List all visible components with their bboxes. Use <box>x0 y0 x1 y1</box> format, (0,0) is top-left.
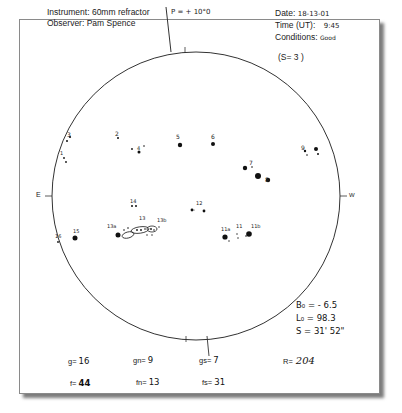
b0-value: B₀ = - 6.5 <box>296 300 337 310</box>
spot-label-14: 14 <box>130 198 136 204</box>
solar-disk-drawing <box>0 0 402 413</box>
spot-label-8: 8 <box>265 176 269 183</box>
east-label: E <box>36 191 41 198</box>
f-count: f=44 <box>70 378 90 388</box>
spot-label-7: 7 <box>249 159 253 166</box>
gn-count: gn=9 <box>133 355 153 365</box>
spot-label-9: 9 <box>301 144 305 151</box>
spot-label-4: 4 <box>137 145 140 151</box>
f-value: 44 <box>78 378 90 388</box>
spot-label-11: 11 <box>236 223 242 229</box>
g-value: 16 <box>79 356 90 366</box>
spot-label-1: 1 <box>60 150 63 156</box>
spot-label-13a: 13a <box>107 223 116 229</box>
fs-label: fs= <box>202 378 212 387</box>
sunspots <box>57 136 319 243</box>
r-value: 204 <box>296 355 315 366</box>
spot-label-13: 13 <box>139 215 145 221</box>
spot-label-12: 12 <box>196 200 202 206</box>
p-angle-label: P = + 10°0 <box>171 8 211 16</box>
spot-label-5: 5 <box>176 133 180 140</box>
g-count: g=16 <box>68 356 89 366</box>
r-count: R=204 <box>283 355 315 366</box>
spot-label-3: 3 <box>67 131 71 138</box>
gs-value: 7 <box>213 355 218 365</box>
spot-label-11b: 11b <box>251 223 261 229</box>
solar-limb-circle <box>52 52 340 340</box>
r-label: R= <box>283 357 293 366</box>
gn-label: gn= <box>133 356 146 365</box>
spot-label-11a: 11a <box>221 226 230 232</box>
spot-label-16: 16 <box>55 233 61 239</box>
fs-value: 31 <box>214 377 225 387</box>
spot-label-2: 2 <box>115 130 119 137</box>
gs-count: gs=7 <box>199 355 219 365</box>
s-value: S = 31' 52" <box>296 326 345 336</box>
fn-value: 13 <box>149 377 160 387</box>
spot-label-6: 6 <box>211 133 215 140</box>
l0-value: L₀ = 98.3 <box>296 313 336 323</box>
g-label: g= <box>68 357 77 366</box>
fn-label: fn= <box>136 378 147 387</box>
spot-label-15: 15 <box>73 228 79 234</box>
west-label: W <box>349 192 355 198</box>
f-label: f= <box>70 379 76 388</box>
fn-count: fn=13 <box>136 377 159 387</box>
fs-count: fs=31 <box>202 377 225 387</box>
gn-value: 9 <box>148 355 153 365</box>
gs-label: gs= <box>199 356 211 365</box>
spot-label-13b: 13b <box>157 217 167 223</box>
